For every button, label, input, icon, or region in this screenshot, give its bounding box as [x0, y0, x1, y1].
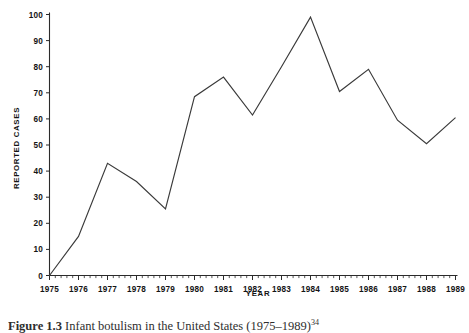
y-axis-tick-label: 10: [33, 245, 43, 254]
x-axis-tick-label: 1977: [98, 285, 117, 294]
chart-plot-area: 0102030405060708090100 19751976197719781…: [0, 0, 469, 300]
y-axis-tick-label: 50: [33, 141, 43, 150]
x-axis-tick-label: 1985: [330, 285, 349, 294]
x-axis-tick-label: 1987: [388, 285, 407, 294]
y-axis-tick-label: 40: [33, 167, 43, 176]
x-axis-title: YEAR: [246, 289, 270, 298]
x-axis-tick-label: 1979: [156, 285, 175, 294]
y-axis-tick-label: 70: [33, 89, 43, 98]
y-axis-title: REPORTED CASES: [12, 107, 21, 189]
y-axis-tick-label: 100: [29, 11, 44, 20]
x-axis-tick-label: 1978: [127, 285, 146, 294]
figure-caption-number: Figure 1.3: [8, 319, 62, 333]
figure-caption-reference: 34: [311, 318, 319, 327]
x-axis-tick-label: 1975: [40, 285, 59, 294]
y-axis-tick-label: 80: [33, 63, 43, 72]
figure-caption-text: Infant botulism in the United States (19…: [65, 319, 311, 333]
y-axis-tick-label: 0: [38, 272, 43, 281]
x-axis-tick-label: 1976: [69, 285, 88, 294]
line-chart: 0102030405060708090100 19751976197719781…: [0, 0, 469, 300]
x-axis-tick-label: 1989: [446, 285, 465, 294]
y-axis-tick-label: 60: [33, 115, 43, 124]
y-axis-tick-label: 20: [33, 219, 43, 228]
x-axis-tick-label: 1981: [214, 285, 233, 294]
x-axis-tick-label: 1984: [301, 285, 320, 294]
x-axis-tick-label: 1986: [359, 285, 378, 294]
y-axis-tick-label: 30: [33, 193, 43, 202]
figure-caption: Figure 1.3 Infant botulism in the United…: [8, 316, 463, 333]
y-axis-tick-label: 90: [33, 37, 43, 46]
x-axis-tick-label: 1983: [272, 285, 291, 294]
x-axis-tick-label: 1980: [185, 285, 204, 294]
x-axis-tick-label: 1988: [417, 285, 436, 294]
chart-background: [0, 0, 469, 300]
